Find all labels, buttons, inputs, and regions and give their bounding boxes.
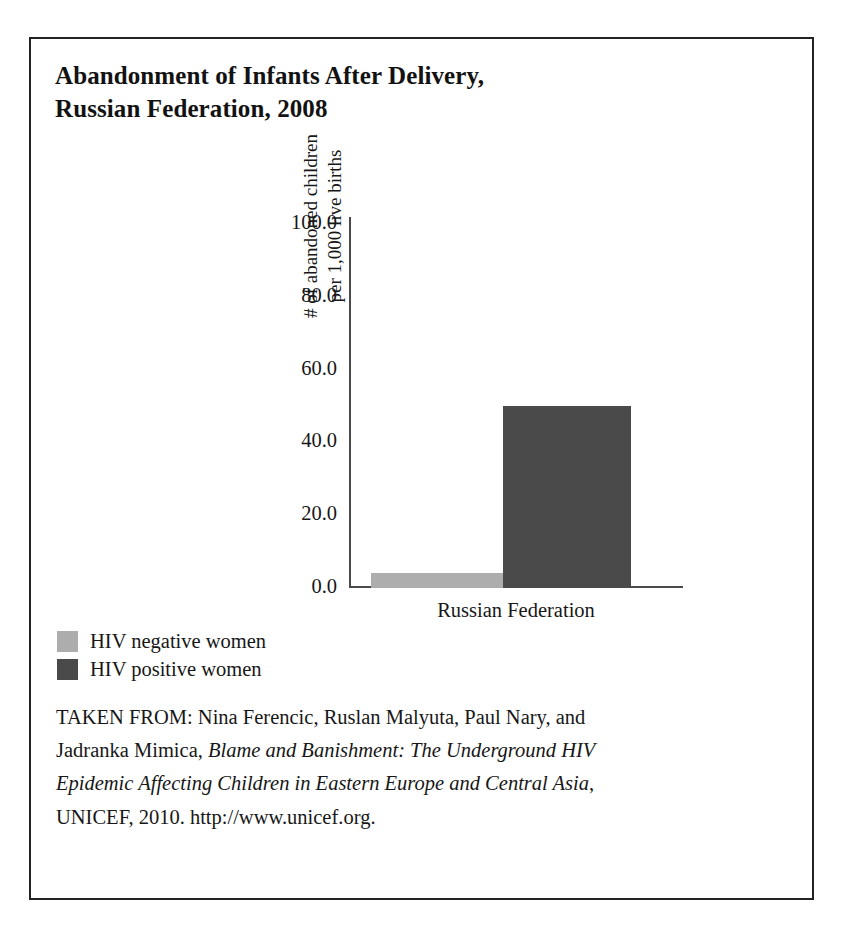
- legend-swatch-icon-hiv-positive: [57, 659, 78, 680]
- source-title-part-2: Epidemic Affecting Children in Eastern E…: [56, 772, 589, 794]
- x-axis-category-label: Russian Federation: [349, 599, 683, 622]
- y-tick-20: 20.0: [231, 503, 337, 524]
- source-authors-tail: Jadranka Mimica,: [56, 739, 208, 761]
- source-title-comma: ,: [589, 772, 594, 794]
- legend-swatch-icon-hiv-negative: [57, 631, 78, 652]
- legend-label-hiv-negative: HIV negative women: [90, 631, 266, 652]
- figure-title-line-1: Abandonment of Infants After Delivery,: [55, 59, 755, 92]
- source-line-4: UNICEF, 2010. http://www.unicef.org.: [56, 801, 776, 834]
- chart-legend: HIV negative women HIV positive women: [57, 627, 477, 683]
- y-tick-60: 60.0: [231, 357, 337, 378]
- bar-hiv-negative-women: [371, 573, 503, 588]
- bar-chart-plot-area: # of abandoned children per 1,000 live b…: [31, 149, 812, 649]
- bar-hiv-positive-women: [503, 406, 631, 588]
- figure-title: Abandonment of Infants After Delivery, R…: [55, 59, 755, 125]
- y-tick-0: 0.0: [231, 576, 337, 597]
- legend-item-hiv-negative: HIV negative women: [57, 627, 477, 655]
- y-tick-40: 40.0: [231, 430, 337, 451]
- source-line-1: TAKEN FROM: Nina Ferencic, Ruslan Malyut…: [56, 701, 776, 734]
- y-tick-80: 80.0: [231, 285, 337, 306]
- y-axis-tick-labels: 100.0 80.0 60.0 40.0 20.0 0.0: [231, 149, 337, 589]
- source-attribution: TAKEN FROM: Nina Ferencic, Ruslan Malyut…: [56, 701, 776, 834]
- y-axis-line: [349, 217, 351, 588]
- figure-frame: Abandonment of Infants After Delivery, R…: [29, 37, 814, 900]
- source-title-part-1: Blame and Banishment: The Underground HI…: [208, 739, 595, 761]
- source-line-3: Epidemic Affecting Children in Eastern E…: [56, 767, 776, 800]
- legend-item-hiv-positive: HIV positive women: [57, 655, 477, 683]
- figure-title-line-2: Russian Federation, 2008: [55, 92, 755, 125]
- legend-label-hiv-positive: HIV positive women: [90, 659, 262, 680]
- y-tick-100: 100.0: [231, 212, 337, 233]
- source-line-2: Jadranka Mimica, Blame and Banishment: T…: [56, 734, 776, 767]
